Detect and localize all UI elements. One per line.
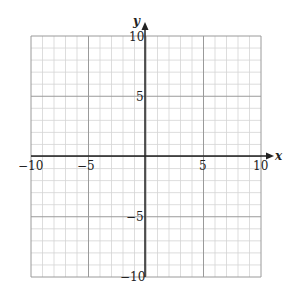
x-axis-label: x	[274, 149, 283, 163]
x-tick-label: 10	[253, 159, 268, 173]
y-tick-label: 10	[129, 30, 144, 44]
x-tick-label: 5	[199, 159, 207, 173]
y-tick-label: −10	[120, 270, 145, 284]
y-tick-label: 5	[136, 90, 144, 104]
y-axis-label: y	[132, 14, 141, 28]
x-tick-label: −5	[77, 159, 95, 173]
x-axis	[31, 153, 274, 160]
x-tick-label: −10	[18, 159, 43, 173]
y-tick-label: −5	[126, 210, 144, 224]
coordinate-plane: x y −10 −5 5 10 10 5 −5 −10	[0, 0, 297, 297]
